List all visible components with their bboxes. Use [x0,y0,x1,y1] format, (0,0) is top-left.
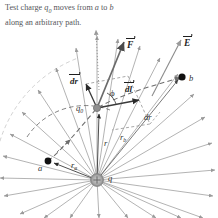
electric-field-lines [0,36,215,218]
diagram-canvas [0,0,218,218]
dr-scalar-label: dr [144,112,152,122]
radius-ra-label: ra [71,160,77,171]
field-vector-arrow [152,40,181,96]
force-vector-label: F [127,40,133,50]
vertical-dotted-reference-arrow [96,30,99,90]
point-a-label: a [38,163,42,173]
angle-phi-label: ϕ [110,88,115,98]
force-vector-arrow [97,42,124,108]
point-a-marker [45,158,52,165]
point-b-marker [178,73,185,80]
dl-vector-arrow [97,100,139,108]
dl-vector-label: dl [125,84,132,94]
radius-rb-label: rb [120,132,126,143]
source-charge-label: q [108,173,112,183]
electric-field-work-diagram: Test charge q0 moves from a to b along a… [0,0,218,218]
radius-r-label: r [104,138,107,148]
test-charge-marker [93,104,100,111]
test-charge-label: q0 [76,103,83,114]
field-vector-label: E [184,38,190,48]
dr-vector-arrow [86,84,97,108]
dr-vector-label: dr [70,76,78,86]
point-b-label: b [189,73,193,83]
